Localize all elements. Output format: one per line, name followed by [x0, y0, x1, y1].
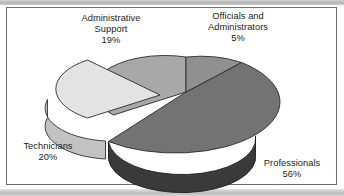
slice-label-technicians: Technicians 20% [2, 141, 94, 163]
slice-label-officials-value: 5% [182, 33, 294, 44]
slice-label-admin-support-line1: Administrative [52, 13, 170, 24]
slice-label-professionals-value: 56% [244, 169, 340, 180]
slice-label-professionals: Professionals 56% [244, 158, 340, 180]
slice-label-admin-support: Administrative Support 19% [52, 13, 170, 47]
slice-label-officials-line1: Officials and [182, 11, 294, 22]
slice-label-technicians-value: 20% [2, 152, 94, 163]
slice-label-technicians-line1: Technicians [2, 141, 94, 152]
slice-label-admin-support-value: 19% [52, 35, 170, 46]
pie-chart: Administrative Support 19% Officials and… [0, 0, 344, 196]
slice-label-professionals-line1: Professionals [244, 158, 340, 169]
slice-label-officials: Officials and Administrators 5% [182, 11, 294, 45]
slice-label-admin-support-line2: Support [52, 24, 170, 35]
figure-page: Administrative Support 19% Officials and… [0, 0, 344, 196]
slice-label-officials-line2: Administrators [182, 22, 294, 33]
